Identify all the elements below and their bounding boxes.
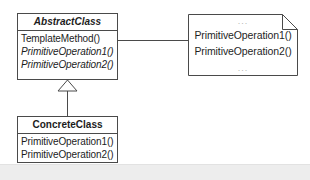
concrete-class-member-primitive-operation-2: PrimitiveOperation2() <box>21 148 115 161</box>
concrete-class-title: ConcreteClass <box>18 117 117 134</box>
abstract-class-box[interactable]: AbstractClass TemplateMethod() Primitive… <box>17 13 118 80</box>
abstract-class-member-primitive-operation-1: PrimitiveOperation1() <box>21 45 115 58</box>
generalization-line <box>67 91 68 116</box>
uml-diagram-canvas: AbstractClass TemplateMethod() Primitive… <box>0 0 310 180</box>
note-body: ... PrimitiveOperation1() PrimitiveOpera… <box>188 14 298 76</box>
concrete-class-member-primitive-operation-1: PrimitiveOperation1() <box>21 135 115 148</box>
page-bottom-band <box>0 165 310 180</box>
concrete-class-members: PrimitiveOperation1() PrimitiveOperation… <box>18 134 117 162</box>
note-top-ellipsis: ... <box>238 17 249 27</box>
abstract-class-member-primitive-operation-2: PrimitiveOperation2() <box>21 58 115 71</box>
note-bottom-ellipsis: ... <box>238 64 249 74</box>
abstract-class-members: TemplateMethod() PrimitiveOperation1() P… <box>18 31 117 72</box>
abstract-class-member-template-method: TemplateMethod() <box>21 32 115 45</box>
abstract-class-title: AbstractClass <box>18 14 117 31</box>
note-line-primitive-operation-2: PrimitiveOperation2() <box>194 43 291 59</box>
uml-note[interactable]: ... PrimitiveOperation1() PrimitiveOpera… <box>188 14 298 76</box>
note-anchor-line <box>117 40 189 41</box>
note-line-primitive-operation-1: PrimitiveOperation1() <box>194 27 291 43</box>
concrete-class-box[interactable]: ConcreteClass PrimitiveOperation1() Prim… <box>17 116 118 163</box>
